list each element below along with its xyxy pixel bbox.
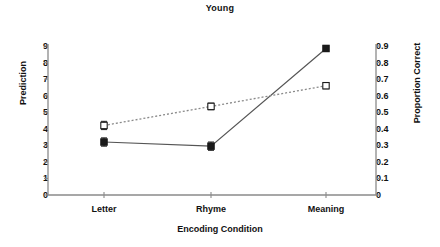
data-point-open-square xyxy=(323,83,329,89)
data-point-filled-square xyxy=(101,139,107,145)
chart-container: Young Prediction Proportion Correct Enco… xyxy=(0,0,440,247)
data-point-filled-square xyxy=(323,45,329,51)
series-line-dotted xyxy=(104,86,326,126)
data-point-open-square xyxy=(208,103,214,109)
data-point-open-square xyxy=(101,122,107,128)
data-point-filled-square xyxy=(208,143,214,149)
series-line-solid xyxy=(104,48,326,146)
plot-area xyxy=(0,0,440,247)
